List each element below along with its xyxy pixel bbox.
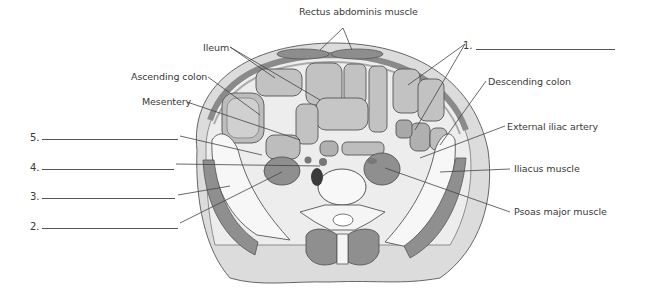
- external-iliac-artery-left: [305, 157, 312, 164]
- answer-line-2: [42, 228, 178, 229]
- label-descending-colon: Descending colon: [488, 76, 571, 87]
- spinal-canal: [333, 214, 353, 226]
- aorta: [319, 158, 327, 166]
- rectus-abdominis-right: [331, 49, 383, 59]
- answer-line-4: [42, 169, 174, 170]
- answer-line-3: [42, 198, 175, 199]
- blank-number-4: 4.: [30, 162, 40, 173]
- label-mesentery: Mesentery: [142, 96, 191, 107]
- inferior-vena-cava: [311, 168, 323, 186]
- rectus-abdominis-left: [277, 49, 329, 59]
- blank-number-3: 3.: [30, 191, 40, 202]
- label-external-iliac-artery: External iliac artery: [507, 121, 598, 132]
- abdominal-cross-section-illustration: [0, 0, 645, 295]
- label-rectus-abdominis: Rectus abdominis muscle: [299, 6, 418, 17]
- blank-number-2: 2.: [30, 221, 40, 232]
- label-ileum: Ileum: [203, 42, 229, 53]
- label-ascending-colon: Ascending colon: [131, 71, 207, 82]
- erector-spinae-right: [348, 229, 379, 265]
- blank-number-1: 1.: [463, 40, 473, 51]
- erector-spinae-left: [306, 229, 337, 265]
- psoas-major-left: [264, 157, 300, 185]
- vertebral-body: [318, 169, 366, 205]
- label-iliacus-muscle: Iliacus muscle: [514, 163, 580, 174]
- spinous-process: [337, 234, 348, 264]
- blank-number-5: 5.: [30, 132, 40, 143]
- ileum-loop: [256, 69, 302, 96]
- label-psoas-major-muscle: Psoas major muscle: [514, 206, 607, 217]
- external-iliac-artery-right: [367, 158, 377, 164]
- descending-colon: [410, 123, 430, 151]
- answer-line-1: [476, 49, 615, 50]
- answer-line-5: [42, 139, 178, 140]
- psoas-major-right: [364, 153, 400, 185]
